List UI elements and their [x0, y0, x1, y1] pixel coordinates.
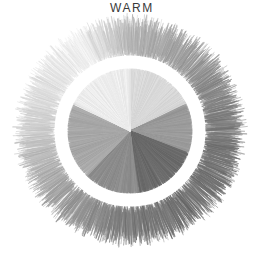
sunburst-chart: WARM	[0, 0, 264, 275]
sunburst-svg	[0, 0, 264, 275]
